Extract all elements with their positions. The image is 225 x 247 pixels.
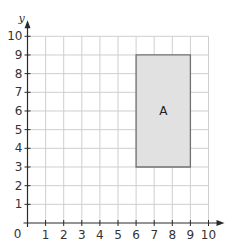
x-tick-label: 10: [201, 228, 216, 242]
shapes: A: [136, 55, 190, 167]
x-tick-label: 4: [96, 228, 104, 242]
origin-label: 0: [14, 227, 22, 241]
y-tick-label: 8: [15, 67, 23, 81]
y-tick-label: 10: [7, 29, 22, 43]
shape-label: A: [159, 104, 168, 118]
x-tick-label: 8: [168, 228, 176, 242]
x-tick-label: 5: [114, 228, 122, 242]
y-tick-label: 7: [15, 85, 23, 99]
y-tick-label: 2: [15, 179, 23, 193]
x-tick-label: 1: [42, 228, 50, 242]
x-tick-label: 3: [78, 228, 86, 242]
y-axis-arrow-icon: [25, 20, 31, 28]
x-axis-arrow-icon: [217, 220, 225, 226]
y-tick-label: 6: [15, 104, 23, 118]
x-tick-label: 2: [60, 228, 68, 242]
x-tick-label: 7: [150, 228, 158, 242]
y-tick-label: 1: [15, 197, 23, 211]
y-tick-label: 4: [15, 141, 23, 155]
y-tick-label: 3: [15, 160, 23, 174]
x-tick-label: 9: [187, 228, 195, 242]
y-tick-label: 9: [15, 48, 23, 62]
coordinate-grid-chart: A x y 0 1234567891012345678910: [0, 0, 225, 247]
x-tick-label: 6: [132, 228, 140, 242]
y-tick-label: 5: [15, 123, 23, 137]
y-axis-label: y: [18, 12, 26, 25]
